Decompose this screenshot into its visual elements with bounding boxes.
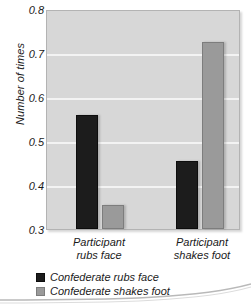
legend-swatch-icon-0 — [36, 273, 45, 282]
y-axis-tick-3: 0.5 — [16, 136, 44, 148]
x-axis-category-1-line-1: shakes foot — [147, 249, 251, 262]
legend-item-1: Confederate shakes foot — [36, 284, 170, 298]
bar-chart-figure: Number of times 0.80.70.60.50.40.3 Parti… — [0, 0, 251, 306]
bar-0-1 — [102, 205, 124, 229]
bar-0-0 — [76, 115, 98, 229]
legend-swatch-icon-1 — [36, 287, 45, 296]
y-axis-tick-1: 0.7 — [16, 48, 44, 60]
chart-legend: Confederate rubs faceConfederate shakes … — [36, 270, 170, 298]
plot-area — [46, 10, 240, 230]
y-axis-tick-4: 0.4 — [16, 180, 44, 192]
y-axis-tick-0: 0.8 — [16, 4, 44, 16]
legend-label-0: Confederate rubs face — [50, 271, 159, 283]
x-axis-category-0-line-0: Participant — [44, 236, 154, 249]
y-axis-tick-2: 0.6 — [16, 92, 44, 104]
legend-item-0: Confederate rubs face — [36, 270, 170, 284]
x-axis-category-1-line-0: Participant — [147, 236, 251, 249]
y-axis-tick-5: 0.3 — [16, 224, 44, 236]
y-axis-tick-labels: 0.80.70.60.50.40.3 — [12, 0, 44, 306]
legend-label-1: Confederate shakes foot — [50, 285, 170, 297]
bar-1-1 — [202, 42, 224, 229]
x-axis-category-label-0: Participantrubs face — [44, 236, 154, 262]
x-axis-category-0-line-1: rubs face — [44, 249, 154, 262]
bar-1-0 — [176, 161, 198, 229]
x-axis-category-label-1: Participantshakes foot — [147, 236, 251, 262]
